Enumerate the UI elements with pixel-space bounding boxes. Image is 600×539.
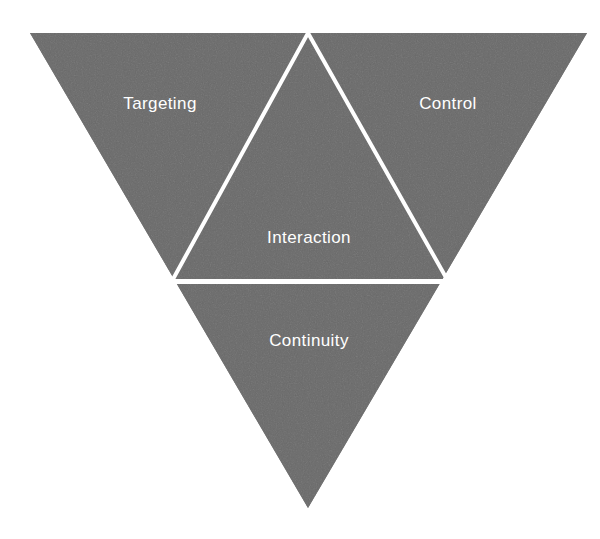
triangle-diagram-graphic <box>0 0 600 539</box>
segment-label-targeting: Targeting <box>123 95 197 112</box>
segment-label-continuity: Continuity <box>269 332 349 349</box>
diagram-canvas: Targeting Control Interaction Continuity <box>0 0 600 539</box>
segment-label-control: Control <box>419 95 477 112</box>
segment-label-interaction: Interaction <box>267 229 351 246</box>
outer-inverted-triangle <box>0 0 600 539</box>
